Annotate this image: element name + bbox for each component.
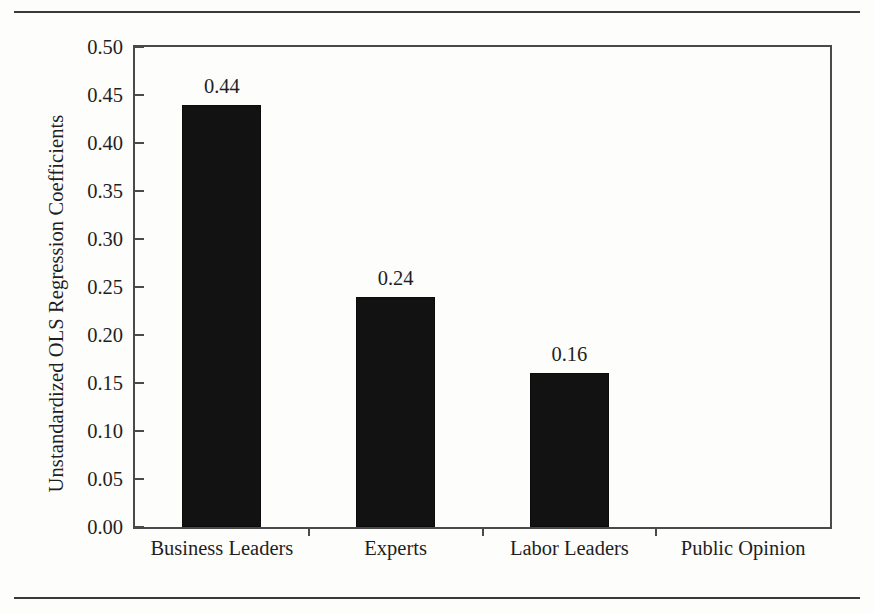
y-axis-tick-label: 0.05 bbox=[87, 468, 135, 491]
y-axis-tick-mark bbox=[135, 190, 144, 192]
y-axis-tick-mark bbox=[135, 382, 144, 384]
figure-top-rule bbox=[14, 11, 860, 13]
figure-container: Unstandardized OLS Regression Coefficien… bbox=[0, 0, 874, 613]
y-axis-tick-label: 0.35 bbox=[87, 180, 135, 203]
bar-value-label: 0.44 bbox=[204, 75, 240, 98]
x-axis-tick-mark bbox=[482, 527, 484, 536]
y-axis-tick-label: 0.40 bbox=[87, 132, 135, 155]
y-axis-tick-mark bbox=[135, 478, 144, 480]
y-axis-tick-label: 0.25 bbox=[87, 276, 135, 299]
x-axis-tick-mark bbox=[308, 527, 310, 536]
y-axis-tick-label: 0.45 bbox=[87, 84, 135, 107]
y-axis-tick-mark bbox=[135, 430, 144, 432]
y-axis-tick-label: 0.50 bbox=[87, 36, 135, 59]
y-axis-tick-mark bbox=[135, 238, 144, 240]
plot-inner: 0.000.050.100.150.200.250.300.350.400.45… bbox=[135, 47, 830, 527]
y-axis-tick-label: 0.00 bbox=[87, 516, 135, 539]
bar-experts[interactable] bbox=[356, 297, 435, 527]
y-axis-tick-mark bbox=[135, 142, 144, 144]
bar-value-label: 0.16 bbox=[551, 343, 587, 366]
x-axis-label-experts: Experts bbox=[364, 537, 427, 560]
y-axis-tick-label: 0.20 bbox=[87, 324, 135, 347]
bar-value-label: 0.24 bbox=[378, 267, 414, 290]
y-axis-title: Unstandardized OLS Regression Coefficien… bbox=[45, 44, 68, 564]
y-axis-tick-label: 0.10 bbox=[87, 420, 135, 443]
x-axis-label-business-leaders: Business Leaders bbox=[150, 537, 293, 560]
y-axis-tick-mark bbox=[135, 526, 144, 528]
x-axis-label-public-opinion: Public Opinion bbox=[681, 537, 806, 560]
y-axis-tick-label: 0.15 bbox=[87, 372, 135, 395]
y-axis-tick-mark bbox=[135, 46, 144, 48]
bar-labor-leaders[interactable] bbox=[530, 373, 609, 527]
y-axis-tick-mark bbox=[135, 286, 144, 288]
figure-bottom-rule bbox=[14, 597, 860, 599]
bar-business-leaders[interactable] bbox=[182, 105, 261, 527]
y-axis-tick-label: 0.30 bbox=[87, 228, 135, 251]
y-axis-tick-mark bbox=[135, 94, 144, 96]
x-axis-tick-mark bbox=[655, 527, 657, 536]
x-axis-label-labor-leaders: Labor Leaders bbox=[510, 537, 629, 560]
y-axis-tick-mark bbox=[135, 334, 144, 336]
plot-area: 0.000.050.100.150.200.250.300.350.400.45… bbox=[133, 45, 832, 529]
